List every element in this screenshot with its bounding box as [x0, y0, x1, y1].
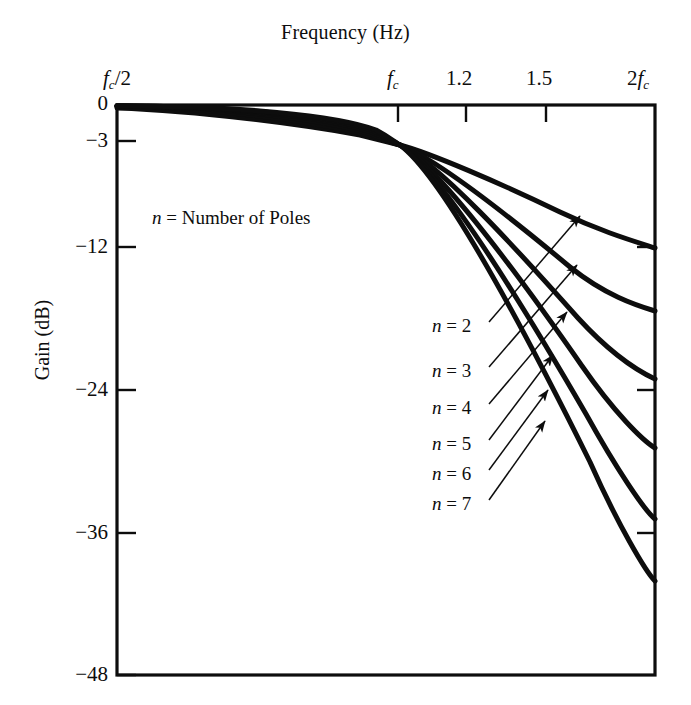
- filter-rolloff-figure: Frequency (Hz) Gain (dB) fc/2 fc 1.2 1.5…: [0, 0, 691, 705]
- y-axis-ticks-right: [637, 247, 655, 533]
- plot-canvas: [0, 0, 691, 705]
- x-axis-ticks: [398, 105, 546, 122]
- response-curves: [117, 106, 655, 581]
- y-axis-ticks: [117, 141, 136, 675]
- curve-n-2: [117, 108, 655, 248]
- curve-n-7: [117, 106, 655, 581]
- curve-n-4: [117, 106, 655, 379]
